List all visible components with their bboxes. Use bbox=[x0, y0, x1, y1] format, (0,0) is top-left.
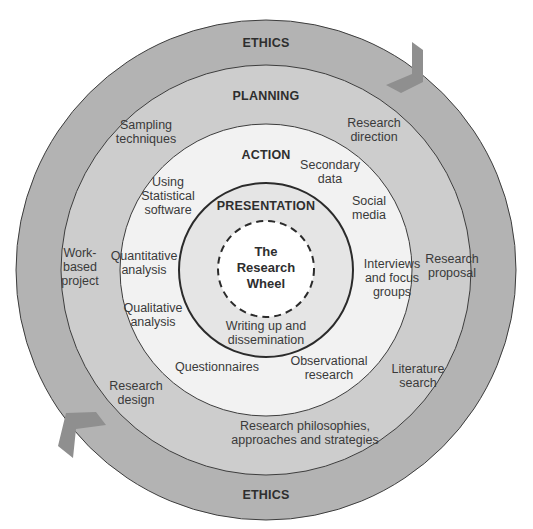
planning-title: PLANNING bbox=[233, 89, 300, 103]
planning-item-research-proposal: Research proposal bbox=[425, 252, 479, 280]
ethics-title-top: ETHICS bbox=[242, 36, 289, 50]
action-item-secondary-data: Secondary data bbox=[300, 158, 360, 186]
action-item-questionnaires: Questionnaires bbox=[175, 360, 259, 374]
research-wheel-center-label: The Research Wheel bbox=[237, 244, 296, 292]
planning-item-literature-search: Literature search bbox=[392, 362, 445, 390]
action-item-observational-research: Observational research bbox=[290, 354, 367, 382]
action-item-social-media: Social media bbox=[352, 194, 386, 222]
planning-item-sampling-techniques: Sampling techniques bbox=[116, 118, 176, 146]
ethics-title-bottom: ETHICS bbox=[242, 488, 289, 502]
planning-item-research-design: Research design bbox=[109, 379, 163, 407]
planning-item-work-based-project: Work- based project bbox=[61, 246, 99, 288]
action-item-statistical-software: Using Statistical software bbox=[141, 175, 195, 217]
action-item-quantitative-analysis: Quantitative analysis bbox=[111, 249, 178, 277]
action-item-interviews-focus-groups: Interviews and focus groups bbox=[364, 257, 420, 299]
planning-item-research-direction: Research direction bbox=[347, 116, 401, 144]
action-item-qualitative-analysis: Qualitative analysis bbox=[123, 301, 182, 329]
presentation-item-writing-up: Writing up and dissemination bbox=[226, 319, 306, 347]
planning-item-research-philosophies: Research philosophies, approaches and st… bbox=[231, 419, 378, 447]
action-title: ACTION bbox=[241, 148, 290, 162]
presentation-title: PRESENTATION bbox=[217, 199, 315, 213]
